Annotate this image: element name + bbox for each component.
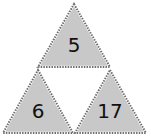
bottom-right-triangle-value: 17 [97, 99, 122, 123]
top-triangle: 5 [38, 4, 110, 67]
top-triangle-value: 5 [68, 33, 81, 57]
bottom-right-triangle: 17 [75, 70, 146, 133]
triangle-puzzle-diagram: 5 6 17 [0, 0, 151, 136]
bottom-left-triangle-value: 6 [32, 99, 45, 123]
bottom-left-triangle: 6 [3, 70, 73, 133]
